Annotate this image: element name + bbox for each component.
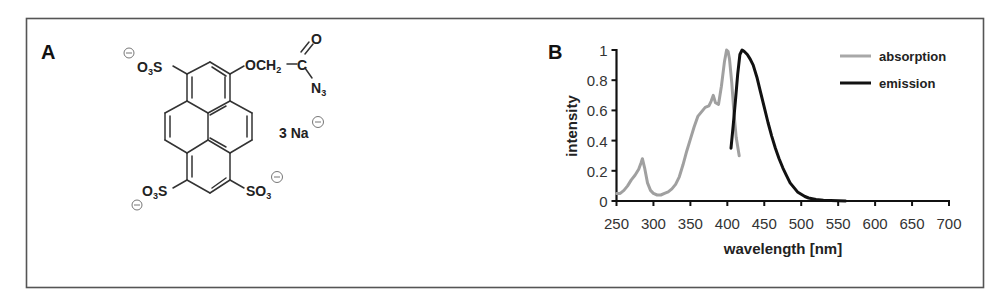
- y-tick-label: 0.8: [587, 72, 608, 89]
- panel-b-label: B: [548, 41, 562, 63]
- x-tick-label: 700: [936, 215, 961, 232]
- carbonyl-carbon: C: [297, 57, 307, 73]
- y-tick-label: 0: [599, 193, 607, 210]
- x-tick-label: 300: [641, 215, 666, 232]
- y-axis-label: intensity: [563, 95, 580, 157]
- ether-group: OCH2: [245, 57, 281, 75]
- carbonyl-oxygen: O: [311, 31, 322, 47]
- panel-a-label: A: [41, 41, 55, 63]
- y-tick-label: 1: [599, 42, 607, 59]
- x-tick-label: 450: [752, 215, 777, 232]
- figure: A: [0, 0, 1001, 306]
- x-tick-label: 650: [900, 215, 925, 232]
- x-tick-label: 600: [863, 215, 888, 232]
- x-tick-label: 550: [826, 215, 851, 232]
- x-axis-label: wavelength [nm]: [723, 240, 842, 257]
- x-tick-label: 250: [604, 215, 629, 232]
- y-tick-label: 0.2: [587, 163, 608, 180]
- x-tick-label: 350: [678, 215, 703, 232]
- legend-emission-label: emission: [879, 76, 935, 91]
- counterion: 3 Na: [279, 125, 309, 141]
- legend-absorption-label: absorption: [879, 49, 946, 64]
- x-tick-label: 400: [715, 215, 740, 232]
- x-tick-label: 500: [789, 215, 814, 232]
- y-tick-label: 0.6: [587, 102, 608, 119]
- y-tick-label: 0.4: [587, 133, 608, 150]
